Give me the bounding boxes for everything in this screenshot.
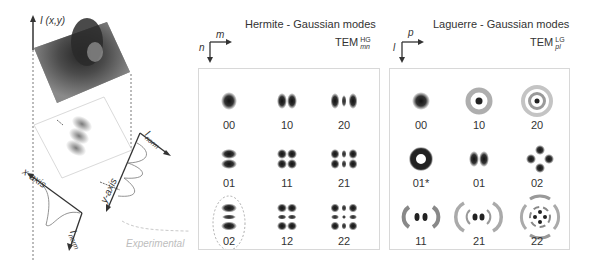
tem-text: TEM: [335, 36, 358, 48]
hg-label-00: 00: [209, 119, 249, 131]
hg-label-20: 20: [324, 119, 364, 131]
hg-label-11: 11: [267, 177, 307, 189]
lg-mode-grid: [390, 69, 569, 249]
schematic: I (x,y) x-axis y-axis Inorm Inorm Experi…: [0, 0, 190, 262]
hg-label-22: 22: [324, 235, 364, 247]
hg-label-12: 12: [267, 235, 307, 247]
tem-indices: HGmn: [360, 36, 371, 50]
laguerre-panel: 00 10 20 01* 01 02 11 21 22: [389, 68, 570, 250]
hermite-title: Hermite - Gaussian modes: [245, 18, 376, 30]
hg-n-label: n: [199, 42, 205, 53]
lg-label-00: 00: [401, 119, 441, 131]
hg-label-10: 10: [267, 119, 307, 131]
laguerre-tem-label: TEMLGpl: [530, 36, 565, 50]
hg-label-02: 02: [209, 235, 249, 247]
hg-label-01: 01: [209, 177, 249, 189]
lg-label-10: 10: [459, 119, 499, 131]
lg-label-01-star: 01*: [401, 177, 441, 189]
intensity-axis-label: I (x,y): [40, 15, 65, 26]
hg-mode-00: [221, 92, 237, 110]
hg-mode-11: [277, 149, 297, 169]
hg-mode-10: [277, 93, 297, 109]
tem-sub: mn: [360, 43, 371, 50]
tem-indices: LGpl: [555, 36, 564, 50]
beam-profile-illustration: [0, 0, 190, 262]
lg-label-21: 21: [459, 235, 499, 247]
lg-mode-01-star: [410, 148, 432, 170]
laguerre-title: Laguerre - Gaussian modes: [433, 18, 569, 30]
lg-mode-00: [412, 92, 430, 110]
lg-label-11: 11: [401, 235, 441, 247]
hg-label-21: 21: [324, 177, 364, 189]
hg-m-label: m: [216, 29, 224, 40]
lg-l-label: l: [393, 42, 395, 53]
tem-sup: HG: [360, 36, 371, 43]
lg-label-22: 22: [517, 235, 557, 247]
tem-sub: pl: [555, 43, 564, 50]
lg-label-01: 01: [459, 177, 499, 189]
lg-mode-10: [468, 90, 490, 112]
lg-mode-02: [526, 145, 554, 173]
hg-mode-01: [221, 149, 237, 169]
hermite-tem-label: TEMHGmn: [335, 36, 371, 50]
lg-mode-20: [523, 87, 551, 115]
hg-mode-grid: [199, 69, 379, 249]
hg-mode-12: [277, 204, 297, 231]
lg-mode-22: [521, 196, 558, 238]
hermite-panel: 00 10 20 01 11 21 02 12 22: [198, 68, 380, 250]
lg-label-02: 02: [517, 177, 557, 189]
lg-p-label: p: [408, 27, 414, 38]
tem-sup: LG: [555, 36, 564, 43]
hg-mode-22: [331, 204, 358, 231]
lg-label-20: 20: [517, 119, 557, 131]
lg-mode-11: [404, 207, 439, 227]
experimental-label: Experimental: [126, 238, 184, 249]
hg-mode-20: [331, 93, 358, 109]
lg-mode-01: [469, 151, 489, 167]
lg-mode-21: [456, 203, 502, 231]
tem-text: TEM: [530, 36, 553, 48]
hg-mode-02: [221, 204, 237, 231]
hg-mode-21: [331, 149, 358, 169]
